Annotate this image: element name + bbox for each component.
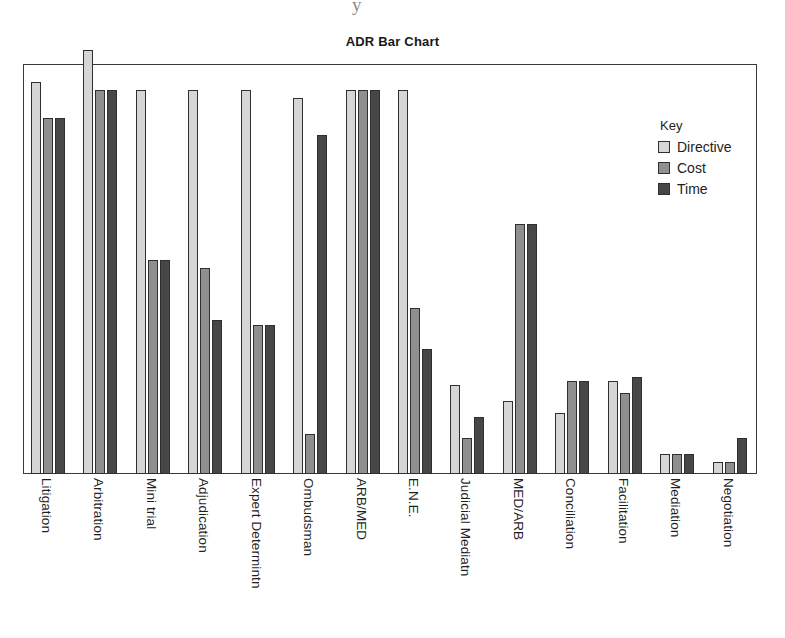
x-axis-label-facilitation: Facilitation bbox=[616, 478, 631, 544]
x-axis-label-mediation: Mediation bbox=[668, 478, 683, 537]
x-axis-label-ombudsman: Ombudsman bbox=[301, 478, 316, 556]
legend-entry-label: Directive bbox=[677, 140, 731, 155]
bar-conciliation-cost bbox=[567, 381, 577, 474]
legend-title: Key bbox=[660, 118, 768, 133]
bar-e-n-e--cost bbox=[410, 308, 420, 474]
bars-layer bbox=[23, 58, 757, 474]
bar-mini-trial-cost bbox=[148, 260, 158, 474]
x-axis-label-expert-determintn: Expert Determintn bbox=[249, 478, 264, 589]
bar-group bbox=[293, 58, 327, 474]
bar-group bbox=[450, 58, 484, 474]
bar-med-arb-directive bbox=[503, 401, 513, 474]
bar-arb-med-directive bbox=[346, 90, 356, 474]
bar-adjudication-directive bbox=[188, 90, 198, 474]
bar-group bbox=[346, 58, 380, 474]
chart-legend: Key DirectiveCostTime bbox=[658, 118, 768, 200]
bar-arb-med-cost bbox=[358, 90, 368, 474]
chart-figure: y ADR Bar Chart Key DirectiveCostTime Li… bbox=[0, 0, 785, 638]
bar-adjudication-cost bbox=[200, 268, 210, 474]
bar-expert-determintn-time bbox=[265, 325, 275, 474]
bar-litigation-directive bbox=[31, 82, 41, 474]
bar-arbitration-directive bbox=[83, 50, 93, 474]
bar-group bbox=[83, 58, 117, 474]
legend-entry-directive: Directive bbox=[658, 137, 768, 157]
bar-ombudsman-cost bbox=[305, 434, 315, 474]
bar-litigation-cost bbox=[43, 118, 53, 474]
x-axis-label-conciliation: Conciliation bbox=[563, 478, 578, 549]
bar-conciliation-time bbox=[579, 381, 589, 474]
bar-judicial-mediatn-directive bbox=[450, 385, 460, 474]
bar-negotiation-time bbox=[737, 438, 747, 474]
bar-judicial-mediatn-cost bbox=[462, 438, 472, 474]
bar-arb-med-time bbox=[370, 90, 380, 474]
bar-negotiation-directive bbox=[713, 462, 723, 474]
legend-entry-label: Time bbox=[677, 182, 708, 197]
bar-ombudsman-directive bbox=[293, 98, 303, 474]
legend-entry-label: Cost bbox=[677, 161, 706, 176]
bar-litigation-time bbox=[55, 118, 65, 474]
bar-arbitration-cost bbox=[95, 90, 105, 474]
bar-mediation-directive bbox=[660, 454, 670, 474]
bar-arbitration-time bbox=[107, 90, 117, 474]
bar-adjudication-time bbox=[212, 320, 222, 474]
bar-group bbox=[136, 58, 170, 474]
x-axis-label-arb-med: ARB/MED bbox=[354, 478, 369, 540]
legend-entry-time: Time bbox=[658, 179, 768, 199]
legend-entry-cost: Cost bbox=[658, 158, 768, 178]
bar-group bbox=[398, 58, 432, 474]
x-axis-label-judicial-mediatn: Judicial Mediatn bbox=[458, 478, 473, 576]
x-axis-label-med-arb: MED/ARB bbox=[511, 478, 526, 540]
x-axis-label-mini-trial: Mini trial bbox=[144, 478, 159, 529]
legend-swatch-icon bbox=[658, 141, 670, 153]
bar-conciliation-directive bbox=[555, 413, 565, 474]
bar-group bbox=[608, 58, 642, 474]
bar-med-arb-cost bbox=[515, 224, 525, 474]
bar-group bbox=[503, 58, 537, 474]
x-axis-label-negotiation: Negotiation bbox=[721, 478, 736, 547]
bar-e-n-e--time bbox=[422, 349, 432, 474]
bar-med-arb-time bbox=[527, 224, 537, 474]
bar-mediation-cost bbox=[672, 454, 682, 474]
legend-rows: DirectiveCostTime bbox=[658, 137, 768, 199]
legend-swatch-icon bbox=[658, 162, 670, 174]
bar-facilitation-time bbox=[632, 377, 642, 474]
scan-artifact: y bbox=[352, 0, 378, 16]
bar-judicial-mediatn-time bbox=[474, 417, 484, 474]
x-axis-label-litigation: Litigation bbox=[39, 478, 54, 533]
bar-mediation-time bbox=[684, 454, 694, 474]
bar-e-n-e--directive bbox=[398, 90, 408, 474]
bar-negotiation-cost bbox=[725, 462, 735, 474]
x-axis-label-arbitration: Arbitration bbox=[91, 478, 106, 541]
bar-group bbox=[555, 58, 589, 474]
bar-mini-trial-time bbox=[160, 260, 170, 474]
x-axis-label-e-n-e-: E.N.E. bbox=[406, 478, 421, 518]
bar-ombudsman-time bbox=[317, 135, 327, 474]
bar-facilitation-directive bbox=[608, 381, 618, 474]
legend-swatch-icon bbox=[658, 183, 670, 195]
bar-facilitation-cost bbox=[620, 393, 630, 474]
bar-expert-determintn-cost bbox=[253, 325, 263, 474]
x-axis-label-adjudication: Adjudication bbox=[196, 478, 211, 553]
bar-group bbox=[188, 58, 222, 474]
bar-group bbox=[31, 58, 65, 474]
bar-mini-trial-directive bbox=[136, 90, 146, 474]
x-axis-labels: LitigationArbitrationMini trialAdjudicat… bbox=[23, 478, 757, 628]
bar-group bbox=[241, 58, 275, 474]
bar-expert-determintn-directive bbox=[241, 90, 251, 474]
chart-title: ADR Bar Chart bbox=[0, 34, 785, 49]
